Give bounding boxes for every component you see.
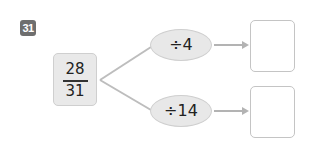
arrow-icon-top	[214, 41, 249, 49]
operation-divide-4: ÷4	[150, 29, 212, 61]
arrow-icon-bottom	[214, 107, 249, 115]
branch-line-top	[100, 47, 151, 80]
operation-divide-14: ÷14	[150, 95, 212, 127]
answer-box-bottom[interactable]	[250, 86, 295, 138]
answer-box-top[interactable]	[250, 20, 295, 72]
branch-line-bottom	[100, 80, 151, 110]
